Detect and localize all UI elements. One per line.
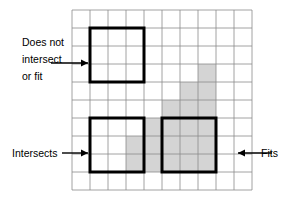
shaded-cell [162,100,180,118]
diagram-stage: Does notintersector fitIntersectsFits [0,0,305,216]
arrow-fits-head [238,150,245,157]
query-square-does-not-intersect[interactable] [90,28,144,82]
shaded-cell [162,118,180,136]
shaded-cell [198,136,216,154]
shaded-cell [144,154,162,172]
shaded-cell [198,100,216,118]
shaded-cell [180,82,198,100]
shaded-cell [180,118,198,136]
shaded-cell [126,136,144,154]
label-does-not-intersect-line-1: Does not [22,36,64,48]
arrow-intersects-head [81,150,88,157]
shaded-cell [162,154,180,172]
label-does-not-intersect-line-2: intersect [22,53,62,65]
label-fits-line-1: Fits [261,147,278,159]
shaded-cell [180,100,198,118]
shaded-cell [198,118,216,136]
shaded-cell [162,136,180,154]
shaded-cell [180,154,198,172]
shaded-cell [126,154,144,172]
shaded-cell [198,154,216,172]
shaded-cell [144,136,162,154]
shaded-cell [180,136,198,154]
shaded-cell [198,82,216,100]
spatial-relationship-diagram: Does notintersector fitIntersectsFits [0,0,305,216]
label-does-not-intersect-line-3: or fit [22,70,43,82]
label-intersects-line-1: Intersects [12,147,58,159]
shaded-cell [144,118,162,136]
shaded-cell [198,64,216,82]
arrow-does-not-intersect-head [81,60,88,67]
